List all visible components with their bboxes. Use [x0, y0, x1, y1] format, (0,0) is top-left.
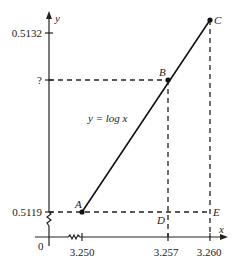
y-axis-arrow-icon [46, 11, 52, 19]
point-c [207, 17, 212, 22]
point-label-e: E [212, 206, 220, 218]
x-tick-label-3-260: 3.260 [197, 246, 222, 258]
origin-label: 0 [38, 240, 44, 252]
point-a [79, 209, 84, 214]
x-axis-break-icon [68, 235, 80, 239]
point-label-c: C [214, 14, 222, 26]
y-axis-label: y [54, 12, 60, 24]
point-label-b: B [159, 66, 166, 78]
y-axis-break-icon [47, 212, 51, 226]
x-tick-label-3-250: 3.250 [70, 246, 95, 258]
point-label-a: A [74, 198, 82, 210]
x-axis-label: x [218, 223, 224, 235]
y-tick-label-unknown: ? [37, 74, 42, 86]
point-label-d: D [156, 214, 165, 226]
x-tick-label-3-257: 3.257 [154, 246, 179, 258]
y-tick-label-0-5132: 0.5132 [12, 27, 42, 39]
linear-interpolation-diagram: y x 0 0.5132 ? 0.5119 3.250 3.257 3.260 … [0, 0, 238, 266]
y-tick-label-0-5119: 0.5119 [12, 206, 42, 218]
point-b [165, 77, 170, 82]
curve-label: y = log x [87, 112, 128, 124]
